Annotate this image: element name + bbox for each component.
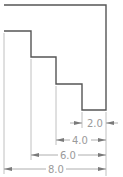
- dimension-6-label: 6.0: [60, 150, 76, 161]
- profile-outline: [4, 5, 106, 110]
- stepped-profile-drawing: 2.0 4.0 6.0 8.0: [0, 0, 123, 177]
- dimension-8-label: 8.0: [48, 164, 64, 175]
- extension-lines: [4, 33, 106, 176]
- dimension-2-label: 2.0: [87, 118, 103, 129]
- dimension-4-label: 4.0: [72, 135, 88, 146]
